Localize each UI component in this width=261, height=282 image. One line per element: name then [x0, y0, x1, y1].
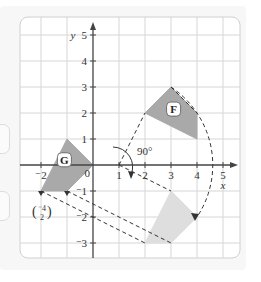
y-tick-label: 5	[82, 29, 88, 41]
y-tick-label: ⁻3	[76, 237, 88, 249]
y-tick-label: 4	[82, 55, 88, 67]
origin-label: 0	[85, 167, 91, 179]
shape-f-label: F	[170, 103, 177, 115]
grid-frame	[20, 17, 240, 258]
x-tick-label: 1	[116, 169, 122, 181]
rotation-angle-label: 90°	[137, 145, 152, 157]
y-tick-label: 2	[82, 107, 88, 119]
x-tick-label: ⁻2	[35, 169, 47, 181]
y-tick-label: ⁻1	[76, 185, 88, 197]
coordinate-grid: ⁻21234554321⁻1⁻2⁻30xy90°(⁻42)FG	[0, 0, 261, 282]
vector-bracket-left: (	[32, 204, 37, 220]
y-tick-label: 3	[82, 81, 88, 93]
vector-bracket-right: )	[47, 204, 52, 220]
x-tick-label: 3	[168, 169, 174, 181]
y-axis-label: y	[70, 29, 76, 41]
vector-bottom: 2	[40, 213, 44, 222]
x-tick-label: 4	[194, 169, 200, 181]
shape-g-label: G	[60, 154, 69, 166]
vector-top: ⁻4	[38, 204, 46, 213]
y-tick-label: 1	[82, 133, 88, 145]
x-axis-label: x	[220, 179, 226, 191]
